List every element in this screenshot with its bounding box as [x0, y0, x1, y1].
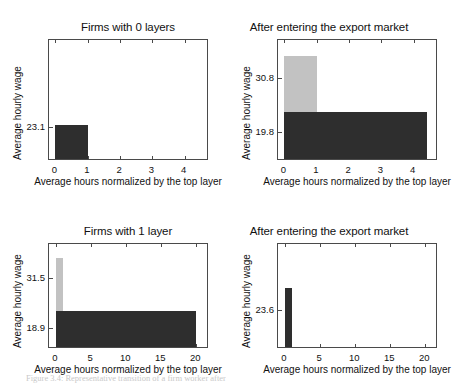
chart-xtick-top-firms-1-layer-after-export-3	[390, 243, 391, 247]
chart-xticklabel-firms-1-layer-after-export-4: 20	[419, 352, 430, 363]
figure-caption: Figure 3.4: Representative transition of…	[26, 373, 226, 384]
chart-title-firms-1-layer-after-export: After entering the export market	[210, 225, 448, 237]
chart-yticklabel-firms-1-layer-after-export-0: 23.6	[250, 304, 274, 315]
chart-xtick-firms-1-layer-after-export-1	[320, 344, 321, 348]
chart-xtick-firms-1-layer-after-export-4	[425, 344, 426, 348]
chart-plotarea-firms-1-layer-after-export	[278, 244, 436, 347]
chart-bar-firms-0-layers-layer-0	[55, 125, 87, 159]
chart-xticklabel-firms-1-layer-after-export-0: 0	[281, 352, 286, 363]
chart-xticklabel-firms-1-layer-after-export-2: 10	[349, 352, 360, 363]
chart-bar-firms-1-layer-layer-0-base	[56, 311, 196, 347]
chart-xtick-firms-1-layer-after-export-3	[390, 344, 391, 348]
chart-xlabel-firms-1-layer-after-export: Average hours normalized by the top laye…	[232, 364, 455, 375]
chart-xticklabel-firms-1-layer-after-export-1: 5	[316, 352, 321, 363]
chart-xtick-firms-1-layer-after-export-2	[355, 344, 356, 348]
chart-bar-firms-0-layers-after-export-layer-0-base	[284, 112, 426, 159]
chart-xticklabel-firms-1-layer-after-export-3: 15	[384, 352, 395, 363]
chart-axes-firms-1-layer-after-export	[277, 243, 437, 348]
chart-ylabel-firms-1-layer-after-export: Average hourly wage	[241, 254, 252, 348]
chart-xtick-top-firms-1-layer-after-export-4	[425, 243, 426, 247]
chart-ytick-firms-1-layer-after-export-0	[278, 310, 282, 311]
chart-xtick-top-firms-1-layer-after-export-2	[355, 243, 356, 247]
chart-bar-firms-1-layer-after-export-layer-0	[285, 288, 292, 347]
chart-xtick-top-firms-1-layer-after-export-1	[320, 243, 321, 247]
figure-panel-grid: Firms with 0 layers0123423.1Average hour…	[0, 0, 455, 385]
chart-xtick-top-firms-1-layer-after-export-0	[285, 243, 286, 247]
